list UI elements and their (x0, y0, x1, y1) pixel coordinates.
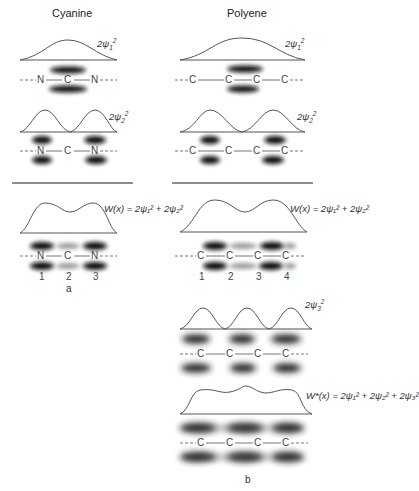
panel-label-b: b (245, 474, 251, 485)
atom-c: C (282, 348, 289, 359)
atom-c: C (64, 145, 71, 156)
atom-c: C (254, 250, 261, 261)
atom-c: C (64, 250, 71, 261)
cyanine-psi1-label: 2ψ12 (97, 37, 116, 51)
atom-c: C (189, 74, 196, 85)
atom-c: C (225, 74, 232, 85)
position-number: 1 (199, 271, 205, 282)
position-number: 4 (284, 271, 290, 282)
atom-c: C (226, 437, 233, 448)
polyene-wstar-curve (180, 386, 312, 414)
atom-n: N (37, 250, 44, 261)
atom-c: C (226, 250, 233, 261)
atom-c: C (226, 348, 233, 359)
position-number: 2 (66, 271, 72, 282)
atom-c: C (197, 250, 204, 261)
cyanine-title: Cyanine (52, 7, 92, 19)
atom-c: C (281, 145, 288, 156)
polyene-psi2-curve (180, 110, 305, 132)
polyene-title: Polyene (227, 7, 267, 19)
atom-c: C (254, 348, 261, 359)
atom-c: C (189, 145, 196, 156)
polyene-psi3-curve (180, 308, 312, 329)
position-number: 1 (39, 271, 45, 282)
atom-c: C (281, 74, 288, 85)
panel-label-a: a (66, 283, 72, 294)
atom-c: C (197, 348, 204, 359)
atom-c: C (225, 145, 232, 156)
position-number: 2 (228, 271, 234, 282)
atom-n: N (91, 74, 98, 85)
position-number: 3 (256, 271, 262, 282)
polyene-psi1-label: 2ψ12 (285, 37, 304, 51)
atom-n: N (37, 74, 44, 85)
atom-c: C (282, 437, 289, 448)
atom-c: C (64, 74, 71, 85)
cyanine-w-curve (20, 203, 117, 233)
atom-c: C (254, 437, 261, 448)
polyene-w-curve (180, 200, 307, 232)
position-number: 3 (93, 271, 99, 282)
atom-n: N (37, 145, 44, 156)
polyene-wstar-formula: W*(x) = 2ψ₁² + 2ψ₂² + 2ψ₃² (306, 390, 419, 401)
cyanine-psi2-curve (20, 110, 117, 132)
atom-c: C (282, 250, 289, 261)
atom-n: N (91, 250, 98, 261)
cyanine-psi2-label: 2ψ22 (109, 110, 128, 124)
polyene-psi3-label: 2ψ32 (305, 298, 324, 312)
polyene-psi2-label: 2ψ22 (297, 110, 316, 124)
atom-c: C (253, 74, 260, 85)
cyanine-w-formula: W(x) = 2ψ₁² + 2ψ₂² (104, 203, 183, 214)
atom-c: C (253, 145, 260, 156)
atom-c: C (197, 437, 204, 448)
atom-n: N (91, 145, 98, 156)
polyene-w-formula: W(x) = 2ψ₁² + 2ψ₂² (290, 203, 369, 214)
